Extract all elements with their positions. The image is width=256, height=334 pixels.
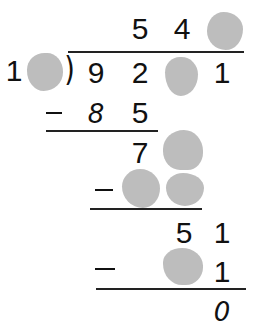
- division-bar: [68, 51, 244, 53]
- quotient-digit-1: 5: [128, 14, 152, 44]
- quotient-digit-2: 4: [170, 14, 194, 44]
- hidden-dividend-digit-3: [165, 57, 198, 96]
- step-3-rule: [96, 288, 246, 290]
- hidden-remainder-1-digit-2: [163, 130, 203, 170]
- dividend-digit-2: 2: [128, 58, 152, 88]
- minus-sign-1: [46, 112, 62, 114]
- remainder-2-digit-1: 5: [172, 218, 196, 248]
- minus-sign-3: [95, 268, 115, 270]
- hidden-quotient-digit-3: [207, 12, 243, 50]
- remainder-1-digit-1: 7: [128, 138, 152, 168]
- dividend-digit-1: 9: [84, 58, 108, 88]
- dividend-digit-4: 1: [210, 58, 234, 88]
- hidden-subtrahend-2-digit-2: [166, 173, 204, 206]
- step-1-rule: [46, 130, 158, 132]
- hidden-subtrahend-2-digit-1: [122, 169, 160, 208]
- subtrahend-1-digit-1: 8: [84, 99, 108, 129]
- hidden-subtrahend-3-digit-1: [163, 248, 203, 285]
- step-2-rule: [90, 208, 202, 210]
- long-division-diagram: 5 4 1 ) 9 2 1 8 5 7 5 1 1 0: [0, 0, 256, 334]
- final-remainder: 0: [210, 297, 234, 327]
- hidden-divisor-digit-2: [27, 53, 63, 91]
- remainder-2-digit-2: 1: [210, 218, 234, 248]
- division-bracket: ): [64, 52, 75, 86]
- divisor-digit-1: 1: [2, 56, 26, 86]
- subtrahend-1-digit-2: 5: [128, 98, 152, 128]
- subtrahend-3-digit-2: 1: [210, 257, 234, 287]
- minus-sign-2: [95, 189, 113, 191]
